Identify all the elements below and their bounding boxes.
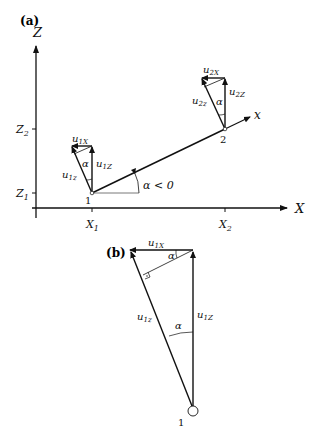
b-alpha-bottom-label: α bbox=[175, 320, 182, 331]
x-axis-label: X bbox=[294, 201, 305, 216]
u1z-vector bbox=[131, 252, 192, 406]
node-1-label: 1 bbox=[85, 195, 91, 206]
alpha-2-label: α bbox=[216, 96, 223, 107]
u1z-label: u1z bbox=[62, 169, 77, 182]
z-axis-label: Z bbox=[32, 25, 43, 40]
b-u1X-label: u1X bbox=[148, 237, 165, 250]
bottom-angle-arc bbox=[169, 332, 193, 336]
x2-label: X2 bbox=[218, 218, 232, 233]
u2X-label: u2X bbox=[203, 64, 220, 77]
local-x-axis bbox=[225, 117, 250, 129]
angle-arc bbox=[134, 171, 139, 193]
top-angle-arc bbox=[176, 250, 177, 258]
b-u1z-label: u1z bbox=[137, 311, 152, 324]
local-x-label: x bbox=[254, 108, 261, 122]
u2Z-label: u2Z bbox=[229, 86, 245, 99]
b-u1Z-label: u1Z bbox=[197, 309, 213, 322]
b-node-1-label: 1 bbox=[178, 417, 184, 427]
u1Z-label: u1Z bbox=[96, 158, 112, 171]
node-2-label: 2 bbox=[220, 134, 226, 145]
u2z-label: u2z bbox=[192, 95, 207, 108]
z2-label: Z2 bbox=[15, 123, 29, 138]
x1-label: X1 bbox=[85, 218, 99, 233]
panel-b-label: (b) bbox=[106, 246, 126, 260]
diagram-canvas: (a) Z X Z2 Z1 X1 X2 x α < 0 1 2 u1X u1Z … bbox=[0, 0, 319, 427]
node1-vectors bbox=[72, 146, 94, 195]
b-alpha-top-label: α bbox=[168, 250, 175, 261]
node-1-circle bbox=[188, 406, 198, 416]
alpha-1-label: α bbox=[82, 158, 89, 169]
angle-label: α < 0 bbox=[143, 179, 174, 192]
panel-a: (a) Z X Z2 Z1 X1 X2 x α < 0 1 2 u1X u1Z … bbox=[15, 14, 305, 233]
z1-label: Z1 bbox=[15, 187, 29, 202]
u1X-label: u1X bbox=[72, 133, 89, 146]
panel-b: (b) u1X α u1Z u1z α 1 bbox=[106, 237, 213, 427]
